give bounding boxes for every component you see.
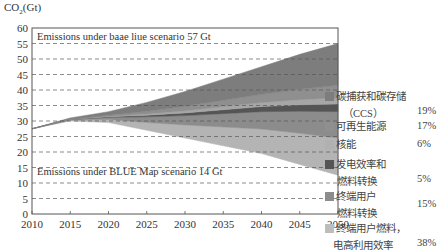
legend-percentage: 15% xyxy=(417,198,436,209)
x-tick-label: 2025 xyxy=(136,218,159,230)
legend-swatch xyxy=(325,122,334,131)
blue-map-annotation: Emissions under BLUE Map scenario 14 Gt xyxy=(37,166,223,177)
x-tick-label: 2010 xyxy=(21,218,44,230)
legend-item: 碳捕获和碳存储 xyxy=(325,90,406,104)
y-tick-label: 35 xyxy=(17,100,29,112)
y-axis-ticks: 051015202530354045505560 xyxy=(17,22,29,220)
legend-item: 可再生能源 xyxy=(325,120,386,134)
baseline-annotation: Emissions under baae liue scenario 57 Gt xyxy=(37,31,211,42)
legend-label: 终端用户燃料， xyxy=(336,223,406,234)
x-tick-label: 2015 xyxy=(59,218,82,230)
legend-percentage: 5% xyxy=(417,173,431,184)
legend-label-line2: 电高利用效率 xyxy=(333,237,393,252)
y-tick-label: 25 xyxy=(17,131,29,143)
legend-swatch xyxy=(325,160,334,169)
x-tick-label: 2035 xyxy=(212,218,235,230)
y-tick-label: 50 xyxy=(17,53,29,65)
legend-label-line2: 燃料转换 xyxy=(337,173,377,188)
legend-label: 核能 xyxy=(336,139,356,150)
y-tick-label: 15 xyxy=(17,162,29,174)
x-tick-label: 2020 xyxy=(98,218,121,230)
legend-item: 终端用户燃料， xyxy=(325,222,406,236)
legend-swatch xyxy=(325,192,334,201)
x-tick-label: 2045 xyxy=(289,218,312,230)
legend-item: 发电效率和 xyxy=(325,158,386,172)
legend-swatch xyxy=(325,92,334,101)
legend-label: 可再生能源 xyxy=(336,121,386,132)
y-tick-label: 45 xyxy=(17,69,29,81)
legend-label: 发电效率和 xyxy=(336,159,386,170)
legend-percentage: 6% xyxy=(417,138,431,149)
y-tick-label: 10 xyxy=(17,177,29,189)
legend-item: 核能 xyxy=(325,138,356,152)
y-tick-label: 30 xyxy=(17,115,29,127)
y-tick-label: 55 xyxy=(17,38,29,50)
y-tick-label: 5 xyxy=(23,193,29,205)
y-tick-label: 20 xyxy=(17,146,29,158)
legend-percentage: 17% xyxy=(417,120,436,131)
legend-label-line2: 燃料转换 xyxy=(337,205,377,220)
legend: 碳捕获和碳存储（CCS）19%可再生能源17%核能6%发电效率和燃料转换5%终端… xyxy=(325,0,439,246)
legend-percentage: 19% xyxy=(417,105,436,116)
y-tick-label: 60 xyxy=(17,22,29,34)
legend-percentage: 38% xyxy=(417,237,436,248)
legend-item: 终端用户 xyxy=(325,190,376,204)
legend-label: 碳捕获和碳存储 xyxy=(336,91,406,102)
x-tick-label: 2030 xyxy=(174,218,197,230)
legend-swatch xyxy=(325,140,334,149)
legend-swatch xyxy=(325,224,334,233)
y-tick-label: 40 xyxy=(17,84,29,96)
legend-label: 终端用户 xyxy=(336,191,376,202)
legend-label-line2: （CCS） xyxy=(343,105,383,120)
x-tick-label: 2040 xyxy=(251,218,274,230)
emission-reduction-bands xyxy=(32,44,338,176)
